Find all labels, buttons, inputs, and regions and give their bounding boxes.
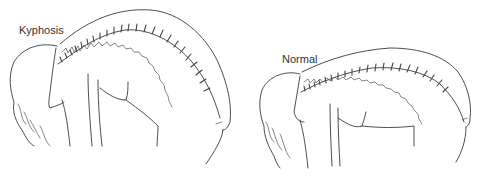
normal-spinous-processes [304,77,422,124]
kyphosis-tailbone [216,122,222,124]
normal-arm-inner [330,104,340,166]
normal-spine-inner-line [301,68,464,122]
normal-belly-outline [362,126,414,146]
kyphosis-neck-line [49,48,64,108]
spine-illustration-svg [0,0,482,177]
illustration: Kyphosis Normal [0,0,482,177]
normal-label: Normal [282,53,317,65]
kyphosis-vertebrae [60,24,210,91]
kyphosis-chest-outline [100,82,128,100]
kyphosis-arm-outline [62,100,70,146]
normal-neck-line [294,76,304,122]
kyphosis-label: Kyphosis [19,24,64,36]
kyphosis-arm-inner [88,74,102,146]
normal-hair-strands [266,122,290,158]
kyphosis-spine-inner-line [58,30,220,118]
normal-head-outline [260,73,300,168]
normal-figure [260,48,471,168]
normal-vertebrae [304,63,448,92]
kyphosis-spinous-processes [62,42,172,107]
kyphosis-hair-strands [18,104,50,146]
normal-arm-outline [300,120,308,168]
normal-back-outline [302,48,471,127]
kyphosis-belly-outline [126,100,158,146]
normal-chest-outline [338,112,366,127]
kyphosis-leg-outline [206,130,223,164]
normal-leg-outline [456,127,466,162]
